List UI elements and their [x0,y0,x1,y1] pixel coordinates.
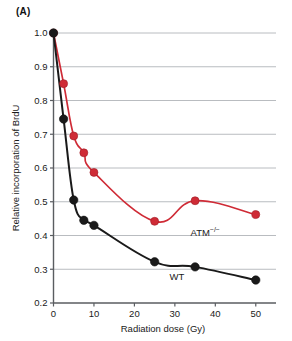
data-point [80,149,88,157]
data-point [191,197,199,205]
data-point [191,263,199,271]
data-point [252,276,260,284]
y-axis-title: Relative incorporation of BrdU [10,104,21,231]
y-axis-tick-label: 0.8 [34,95,47,106]
data-point [90,168,98,176]
x-axis-tick-label: 20 [129,308,140,319]
series-label-text: ATM [191,227,210,238]
y-axis-tick-label: 0.3 [34,264,47,275]
y-axis-tick-label: 0.2 [34,297,47,308]
data-point [59,115,67,123]
x-axis-tick-label: 0 [51,308,56,319]
data-point [252,211,260,219]
y-axis-tick-label: 0.9 [34,61,47,72]
y-axis-tick-labels-group: 0.20.30.40.50.60.70.80.91.0 [34,27,47,308]
x-axis-tick-labels-group: 01020304050 [51,308,261,319]
y-axis-tick-label: 0.4 [34,230,47,241]
data-point [70,196,78,204]
y-axis-tick-label: 0.7 [34,129,47,140]
data-point [80,216,88,224]
y-axis-tick-label: 1.0 [34,27,47,38]
data-point [49,29,57,37]
data-point [151,217,159,225]
chart-canvas: 01020304050 0.20.30.40.50.60.70.80.91.0 … [0,0,292,341]
x-axis-tick-label: 10 [89,308,100,319]
data-point [150,258,158,266]
series-line [54,33,256,222]
series-annotations-group: ATM−/−WT [169,226,219,282]
x-axis-tick-label: 30 [170,308,181,319]
x-axis-title: Radiation dose (Gy) [121,323,205,334]
x-axis-tick-label: 40 [210,308,221,319]
y-axis-tick-label: 0.6 [34,162,47,173]
series-label-text: WT [169,271,184,282]
y-axis-tick-label: 0.5 [34,196,47,207]
series-label-superscript: −/− [210,226,220,233]
data-point [90,221,98,229]
figure-panel-a: (A) 01020304050 0.20.30.40.50.60.70.80.9… [0,0,292,341]
series-label: WT [169,271,184,282]
data-point [60,80,68,88]
x-axis-tick-label: 50 [250,308,261,319]
data-point [70,132,78,140]
